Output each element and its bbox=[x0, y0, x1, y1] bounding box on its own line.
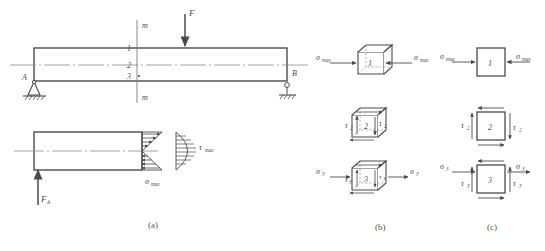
square-3-left-stress: σ bbox=[440, 162, 445, 171]
bending-stress-distribution: σ max bbox=[142, 132, 162, 187]
section-label-bottom: m bbox=[142, 93, 148, 102]
tau-max-label-sub: max bbox=[205, 147, 214, 153]
cube-2-right-stress-sub: 2 bbox=[384, 123, 387, 129]
support-b-label: B bbox=[292, 69, 297, 78]
square-2-right-stress-sub: 2 bbox=[519, 127, 522, 133]
free-body-segment bbox=[14, 132, 160, 170]
square-2-left-stress: τ bbox=[461, 121, 465, 130]
applied-load-F: F bbox=[185, 8, 195, 46]
square-element-3: 3 σ 3 σ 3 τ 3 τ 3 bbox=[440, 161, 530, 198]
support-a-label: A bbox=[21, 73, 27, 82]
reaction-label-FA: F bbox=[40, 194, 47, 204]
square-3-shear-left: τ bbox=[461, 179, 465, 188]
cube-1-left-stress: σ bbox=[316, 53, 321, 62]
square-element-1: 1 σ max σ max bbox=[440, 48, 531, 76]
cube-2-right-stress: τ bbox=[379, 119, 382, 128]
square-2-number: 2 bbox=[488, 123, 492, 132]
square-3-right-stress-sub: 3 bbox=[522, 166, 525, 172]
square-1-right-stress-sub: max bbox=[522, 56, 531, 62]
sigma-max-label: σ bbox=[145, 177, 150, 186]
cube-3-right-stress: σ bbox=[410, 167, 415, 176]
square-1-right-stress: σ bbox=[516, 52, 521, 61]
panel-c-2d-elements: 1 σ max σ max 2 τ 2 τ 2 3 σ 3 bbox=[440, 48, 531, 232]
cube-1-number: 1 bbox=[368, 59, 372, 68]
caption-a: (a) bbox=[148, 220, 158, 230]
reaction-force-FA: F A bbox=[38, 170, 51, 205]
cube-2-left-stress: τ bbox=[345, 121, 348, 130]
point-label-1: 1 bbox=[127, 44, 131, 53]
beam-outline bbox=[34, 48, 287, 81]
section-points: 1 2 3 bbox=[126, 44, 140, 81]
square-3-left-stress-sub: 3 bbox=[446, 166, 449, 172]
square-3-shear-right-sub: 3 bbox=[519, 183, 522, 189]
cube-3-right-stress-sub: 3 bbox=[416, 171, 419, 177]
square-element-2: 2 τ 2 τ 2 bbox=[461, 108, 522, 145]
cube-3-shear-left-sub: 3 bbox=[349, 179, 352, 185]
section-label-top: m bbox=[142, 21, 148, 30]
shear-stress-distribution: τ max bbox=[176, 132, 214, 170]
cube-1-left-stress-sub: max bbox=[322, 57, 331, 63]
cube-3-left-stress-sub: 3 bbox=[322, 171, 325, 177]
cube-element-1: 1 σ max σ max bbox=[316, 45, 429, 74]
engineering-figure: m m 1 2 3 F A B bbox=[0, 0, 545, 251]
cube-3-left-stress: σ bbox=[316, 167, 321, 176]
square-2-right-stress: τ bbox=[513, 123, 517, 132]
square-1-number: 1 bbox=[488, 59, 492, 68]
square-3-shear-left-sub: 3 bbox=[467, 183, 470, 189]
point-label-3: 3 bbox=[126, 72, 131, 81]
point-marker-3 bbox=[138, 75, 140, 77]
square-3-right-stress: σ bbox=[516, 162, 521, 171]
square-3-number: 3 bbox=[487, 176, 492, 185]
square-2-left-stress-sub: 2 bbox=[467, 125, 470, 131]
panel-b-3d-elements: 1 σ max σ max 2 τ 2 τ 2 bbox=[316, 45, 429, 232]
cube-3-number: 3 bbox=[363, 175, 368, 184]
cube-2-left-stress-sub: 2 bbox=[350, 125, 353, 131]
caption-b: (b) bbox=[375, 222, 386, 232]
support-b-roller: B bbox=[279, 69, 297, 99]
tau-max-label: τ bbox=[199, 143, 203, 152]
sigma-max-label-sub: max bbox=[151, 181, 160, 187]
square-1-left-stress-sub: max bbox=[446, 56, 455, 62]
square-1-left-stress: σ bbox=[440, 52, 445, 61]
caption-c: (c) bbox=[487, 222, 497, 232]
cube-element-2: 2 τ 2 τ 2 bbox=[345, 108, 387, 140]
reaction-label-FA-sub: A bbox=[46, 199, 51, 205]
panel-a-beam-diagram: m m 1 2 3 F A B bbox=[10, 8, 311, 230]
cube-3-shear-right-sub: 3 bbox=[383, 176, 386, 182]
load-label-F: F bbox=[188, 8, 195, 18]
cube-2-number: 2 bbox=[364, 122, 368, 131]
cube-element-3: 3 σ 3 σ 3 τ 3 τ 3 bbox=[316, 161, 419, 193]
point-label-2: 2 bbox=[127, 61, 131, 70]
square-3-shear-right: τ bbox=[513, 179, 517, 188]
cube-1-right-stress: σ bbox=[414, 53, 419, 62]
cube-1-right-stress-sub: max bbox=[420, 57, 429, 63]
section-line-mm: m m bbox=[137, 20, 148, 103]
